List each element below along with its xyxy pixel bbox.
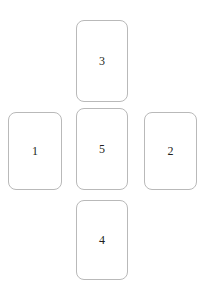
card-number-label: 1 — [32, 145, 38, 157]
card-number-label: 5 — [99, 143, 105, 155]
card-slot-center[interactable]: 5 — [76, 108, 128, 190]
card-slot-right[interactable]: 2 — [144, 112, 197, 190]
card-number-label: 2 — [168, 145, 174, 157]
card-number-label: 3 — [99, 55, 105, 67]
card-spread-diagram: 3 1 5 2 4 — [0, 0, 205, 299]
card-number-label: 4 — [99, 234, 105, 246]
card-slot-bottom[interactable]: 4 — [76, 200, 128, 280]
card-slot-left[interactable]: 1 — [8, 112, 62, 190]
card-slot-top[interactable]: 3 — [76, 20, 128, 102]
